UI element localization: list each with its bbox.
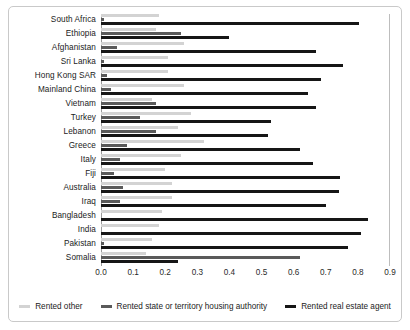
bar-2: [101, 50, 316, 53]
bar-2: [101, 190, 339, 193]
x-axis-tick: 0.1: [127, 268, 138, 277]
bar-1: [101, 88, 111, 91]
bar-1: [101, 186, 123, 189]
bar-1: [101, 32, 181, 35]
bar-1: [101, 242, 104, 245]
bar-row: Greece: [101, 140, 390, 154]
bar-0: [101, 224, 159, 227]
legend-label: Rented other: [35, 302, 82, 311]
bar-1: [101, 102, 156, 105]
bar-2: [101, 176, 340, 179]
bar-row: Afghanistan: [101, 42, 390, 56]
bar-1: [101, 200, 120, 203]
bar-2: [101, 36, 229, 39]
bar-2: [101, 120, 271, 123]
bar-row: India: [101, 224, 390, 238]
y-axis-label: Fiji: [85, 167, 96, 181]
bar-2: [101, 260, 178, 263]
bar-1: [101, 18, 104, 21]
y-axis-label: Australia: [63, 181, 96, 195]
y-axis-label: India: [78, 223, 96, 237]
bar-1: [101, 60, 104, 63]
x-axis-tick: 0.2: [160, 268, 171, 277]
bar-row: Mainland China: [101, 84, 390, 98]
bar-0: [101, 168, 165, 171]
bar-row: Italy: [101, 154, 390, 168]
chart-legend: Rented otherRented state or territory ho…: [10, 296, 400, 316]
x-axis-tick: 0.4: [224, 268, 235, 277]
y-axis-label: Mainland China: [38, 83, 96, 97]
bar-row: Australia: [101, 182, 390, 196]
bar-2: [101, 106, 316, 109]
bar-1: [101, 158, 120, 161]
bar-1: [101, 256, 300, 259]
y-axis-label: Vietnam: [66, 97, 96, 111]
x-axis-tick: 0.5: [256, 268, 267, 277]
bar-1: [101, 144, 127, 147]
bar-0: [101, 252, 146, 255]
bar-2: [101, 246, 348, 249]
bar-row: Turkey: [101, 112, 390, 126]
bar-2: [101, 78, 321, 81]
bar-1: [101, 172, 114, 175]
legend-label: Rented real estate agent: [301, 302, 391, 311]
x-axis-tick: 0.6: [288, 268, 299, 277]
bar-2: [101, 134, 268, 137]
bar-row: Sri Lanka: [101, 56, 390, 70]
y-axis-label: Hong Kong SAR: [35, 69, 96, 83]
y-axis-label: Greece: [69, 139, 96, 153]
bar-2: [101, 148, 300, 151]
y-axis-label: Turkey: [71, 111, 96, 125]
bar-2: [101, 218, 368, 221]
x-axis-tick: 0.0: [95, 268, 106, 277]
bar-row: Pakistan: [101, 238, 390, 252]
bar-row: Somalia: [101, 252, 390, 266]
x-axis-tick: 0.8: [352, 268, 363, 277]
bar-1: [101, 130, 156, 133]
bar-0: [101, 210, 162, 213]
y-axis-label: Pakistan: [64, 237, 96, 251]
bar-0: [101, 28, 156, 31]
bar-2: [101, 22, 359, 25]
chart-figure: South AfricaEthiopiaAfghanistanSri Lanka…: [0, 0, 410, 330]
bar-1: [101, 46, 117, 49]
bar-0: [101, 42, 184, 45]
bar-0: [101, 140, 204, 143]
y-axis-label: Sri Lanka: [61, 55, 96, 69]
bar-row: Fiji: [101, 168, 390, 182]
legend-item[interactable]: Rented other: [19, 302, 82, 311]
legend-item[interactable]: Rented real estate agent: [285, 302, 391, 311]
y-axis-label: Italy: [81, 153, 96, 167]
bar-2: [101, 92, 308, 95]
y-axis-label: Ethiopia: [66, 27, 96, 41]
x-axis: 0.00.10.20.30.40.50.60.70.80.9: [101, 266, 390, 286]
x-axis-tick: 0.3: [192, 268, 203, 277]
bar-0: [101, 126, 178, 129]
bar-0: [101, 112, 191, 115]
bar-0: [101, 238, 152, 241]
bar-2: [101, 204, 326, 207]
x-axis-tick: 0.7: [320, 268, 331, 277]
y-axis-label: Lebanon: [64, 125, 96, 139]
bar-0: [101, 70, 168, 73]
bar-0: [101, 182, 172, 185]
bar-row: Iraq: [101, 196, 390, 210]
bar-0: [101, 196, 172, 199]
bar-1: [101, 74, 107, 77]
y-axis-label: Iraq: [82, 195, 96, 209]
legend-swatch-icon: [101, 305, 112, 308]
bar-rows: South AfricaEthiopiaAfghanistanSri Lanka…: [101, 14, 390, 266]
bar-1: [101, 116, 140, 119]
y-axis-label: Afghanistan: [52, 41, 96, 55]
legend-swatch-icon: [285, 305, 296, 308]
y-axis-label: Somalia: [66, 251, 96, 265]
legend-item[interactable]: Rented state or territory housing author…: [101, 302, 268, 311]
y-axis-label: Bangladesh: [52, 209, 96, 223]
bar-0: [101, 98, 152, 101]
bar-0: [101, 154, 181, 157]
legend-swatch-icon: [19, 305, 30, 308]
bar-0: [101, 56, 168, 59]
legend-label: Rented state or territory housing author…: [117, 302, 268, 311]
bar-row: Bangladesh: [101, 210, 390, 224]
x-axis-tick: 0.9: [384, 268, 395, 277]
